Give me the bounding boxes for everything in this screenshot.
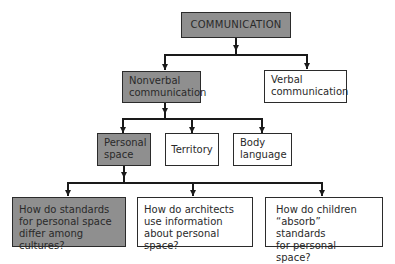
node-label: Territory xyxy=(171,144,212,156)
node-verbal-communication: Verbal communication xyxy=(264,70,347,103)
arrow-down-icon xyxy=(190,190,196,196)
node-personal-space: Personal space xyxy=(97,133,151,166)
arrow-down-icon xyxy=(233,45,239,51)
node-label: Verbal communication xyxy=(271,74,348,97)
arrow-down-icon xyxy=(65,190,71,196)
node-label: Personal space xyxy=(104,137,147,160)
node-label: How do children “absorb” standards for p… xyxy=(276,204,357,263)
node-label: COMMUNICATION xyxy=(190,19,281,31)
arrow-down-icon xyxy=(121,172,127,178)
node-question-cultures: How do standards for personal space diff… xyxy=(12,197,126,247)
arrow-down-icon xyxy=(162,108,168,114)
connector-line xyxy=(67,182,323,184)
arrow-down-icon xyxy=(162,64,168,70)
connector-line xyxy=(122,118,263,120)
node-label: Body language xyxy=(240,137,287,160)
node-body-language: Body language xyxy=(233,133,292,166)
arrow-down-icon xyxy=(319,190,325,196)
node-question-architects: How do architects use information about … xyxy=(137,197,253,247)
node-label: How do architects use information about … xyxy=(144,204,234,251)
node-label: How do standards for personal space diff… xyxy=(19,204,112,251)
node-territory: Territory xyxy=(165,133,219,166)
node-communication: COMMUNICATION xyxy=(181,12,291,38)
node-question-children: How do children “absorb” standards for p… xyxy=(265,197,383,247)
arrow-down-icon xyxy=(304,63,310,69)
connector-line xyxy=(164,54,308,56)
node-label: Nonverbal communication xyxy=(129,75,206,98)
node-nonverbal-communication: Nonverbal communication xyxy=(122,71,201,103)
